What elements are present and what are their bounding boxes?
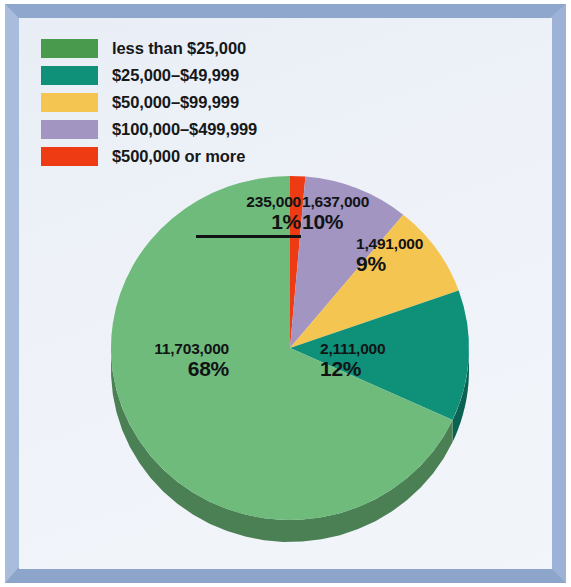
pie-label-value-500000-or-more: 235,000	[169, 194, 301, 211]
legend-swatch-icon-100000-499999	[41, 120, 98, 139]
legend-item-50000-99999: $50,000–$99,999	[41, 89, 341, 116]
legend-swatch-icon-25000-49999	[41, 66, 98, 85]
pie-label-leader-line	[196, 235, 301, 238]
legend-label-less-than-25000: less than $25,000	[112, 39, 246, 58]
pie-label-value-50000-99999: 1,491,000	[356, 236, 476, 253]
legend-label-25000-49999: $25,000–$49,999	[112, 66, 239, 85]
figure-container: less than $25,000 $25,000–$49,999 $50,00…	[0, 0, 571, 587]
legend-item-25000-49999: $25,000–$49,999	[41, 62, 341, 89]
pie-label-value-less-than-25000: 11,703,000	[39, 341, 229, 358]
legend-swatch-icon-less-than-25000	[41, 39, 98, 58]
pie-label-percent-25000-49999: 12%	[320, 358, 440, 381]
pie-label-500000-or-more: 235,000 1%	[169, 194, 301, 238]
pie-label-percent-50000-99999: 9%	[356, 253, 476, 276]
legend-label-100000-499999: $100,000–$499,999	[112, 120, 257, 139]
legend-item-500000-or-more: $500,000 or more	[41, 143, 341, 170]
legend-swatch-icon-50000-99999	[41, 93, 98, 112]
pie-label-50000-99999: 1,491,000 9%	[356, 236, 476, 275]
pie-label-25000-49999: 2,111,000 12%	[320, 341, 440, 380]
pie-label-percent-less-than-25000: 68%	[39, 358, 229, 381]
legend-swatch-icon-500000-or-more	[41, 147, 98, 166]
pie-label-percent-100000-499999: 10%	[302, 211, 420, 234]
pie-slice-25-000-49-999-depth	[453, 349, 469, 442]
pie-label-value-100000-499999: 1,637,000	[302, 194, 420, 211]
legend: less than $25,000 $25,000–$49,999 $50,00…	[41, 35, 341, 170]
pie-label-100000-499999: 1,637,000 10%	[302, 194, 420, 233]
pie-label-value-25000-49999: 2,111,000	[320, 341, 440, 358]
pie-slice-less-than-25-000-depth	[111, 354, 453, 542]
pie-label-less-than-25000: 11,703,000 68%	[39, 341, 229, 380]
legend-item-100000-499999: $100,000–$499,999	[41, 116, 341, 143]
legend-label-50000-99999: $50,000–$99,999	[112, 93, 239, 112]
plot-area: less than $25,000 $25,000–$49,999 $50,00…	[19, 18, 552, 569]
pie-label-percent-500000-or-more: 1%	[169, 211, 301, 234]
legend-label-500000-or-more: $500,000 or more	[112, 147, 245, 166]
legend-item-less-than-25000: less than $25,000	[41, 35, 341, 62]
